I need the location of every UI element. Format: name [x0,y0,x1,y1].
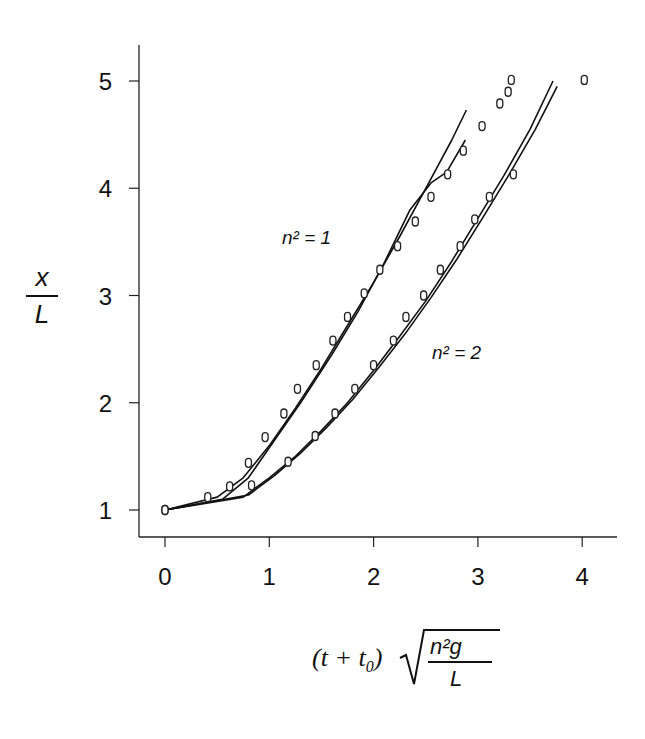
data-point-marker [486,192,492,201]
x-tick-label: 2 [367,563,380,590]
model-curve [165,86,557,510]
data-point-marker [205,493,211,502]
data-point-marker [249,481,255,490]
data-point-marker [262,433,268,442]
data-point-marker [428,192,434,201]
data-point-marker [312,431,318,440]
data-point-marker [472,215,478,224]
data-point-marker [227,482,233,491]
data-point-marker [497,99,503,108]
x-tick-label: 1 [263,563,276,590]
data-point-marker [361,289,367,298]
data-point-marker [294,384,300,393]
data-point-marker [313,361,319,370]
x-axis-label: (t + t0) n²g L [312,622,512,682]
data-point-marker [281,409,287,418]
x-tick-label: 0 [158,563,171,590]
data-point-marker [479,122,485,131]
model-curve [165,81,553,510]
data-point-marker [457,242,463,251]
data-point-marker [330,336,336,345]
y-tick-label: 4 [99,175,112,202]
svg-text:(t + t0): (t + t0) [312,643,382,675]
y-tick-label: 3 [99,283,112,310]
data-point-marker [332,409,338,418]
y-tick-label: 5 [99,68,112,95]
data-point-marker [371,361,377,370]
data-point-marker [245,458,251,467]
data-point-marker [412,217,418,226]
data-point-marker [345,312,351,321]
data-point-marker [352,384,358,393]
data-point-marker [445,170,451,179]
data-point-marker [285,457,291,466]
y-tick-label: 1 [99,497,112,524]
x-label-formula: (t + t0) n²g L [312,622,512,692]
data-point-marker [581,75,587,84]
fraction-bar [26,295,58,297]
y-label-denominator: L [35,299,49,329]
data-point-marker [421,291,427,300]
axes [139,45,617,537]
x-tick-label: 3 [471,563,484,590]
data-point-marker [395,242,401,251]
data-point-marker [505,87,511,96]
data-point-marker [510,170,516,179]
svg-text:n²g: n²g [430,634,463,659]
data-point-marker [162,506,168,515]
ticks: 0123412345 [99,68,589,590]
y-tick-label: 2 [99,390,112,417]
y-label-numerator: x [36,262,49,292]
data-point-marker [377,265,383,274]
curve-label-n2-1: n² = 1 [282,227,331,248]
model-curve [165,140,465,510]
curve-label-n2-2: n² = 2 [432,342,482,363]
data-point-marker [508,75,514,84]
data-point-marker [390,336,396,345]
y-axis-label: x L [22,262,62,330]
svg-text:L: L [450,666,462,691]
data-point-marker [460,146,466,155]
data-point-marker [403,312,409,321]
x-tick-label: 4 [576,563,589,590]
data-point-marker [437,265,443,274]
